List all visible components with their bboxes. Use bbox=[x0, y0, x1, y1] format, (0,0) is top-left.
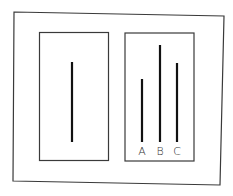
outer-frame bbox=[13, 12, 224, 185]
diagram-canvas: A B C bbox=[0, 0, 233, 196]
reference-card bbox=[40, 33, 109, 161]
label-a: A bbox=[138, 145, 146, 158]
label-c: C bbox=[173, 145, 181, 158]
label-b: B bbox=[156, 145, 163, 158]
